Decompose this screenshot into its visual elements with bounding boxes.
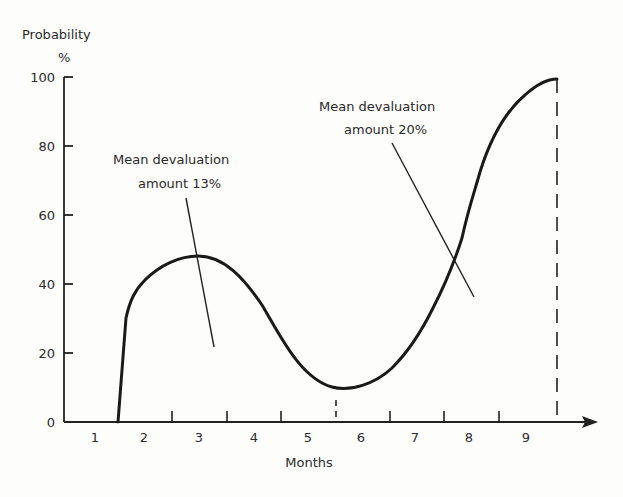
x-tick-2: 2 [140, 430, 148, 445]
x-tick-5: 5 [304, 430, 312, 445]
annotation-1-line1: Mean devaluation [113, 152, 229, 167]
x-tick-1: 1 [91, 430, 99, 445]
x-tick-6: 6 [357, 430, 365, 445]
x-axis-title: Months [285, 455, 333, 470]
x-tick-7: 7 [411, 430, 419, 445]
annotation-1-line2: amount 13% [138, 176, 221, 191]
y-tick-40: 40 [38, 277, 55, 292]
y-axis-unit: % [58, 50, 70, 65]
probability-curve [118, 79, 557, 422]
chart: Probability % 100 80 60 40 20 0 1 2 3 4 … [0, 0, 623, 497]
x-tick-4: 4 [250, 430, 258, 445]
y-tick-20: 20 [38, 346, 55, 361]
annotation-mean-13: Mean devaluation amount 13% [113, 152, 229, 347]
annotation-2-line2: amount 20% [344, 122, 427, 137]
x-tick-labels: 1 2 3 4 5 6 7 8 9 [91, 430, 530, 445]
y-tick-100: 100 [30, 70, 55, 85]
x-tick-8: 8 [465, 430, 473, 445]
y-tick-0: 0 [47, 415, 55, 430]
y-axis-title: Probability [22, 27, 91, 42]
annotation-2-line1: Mean devaluation [319, 99, 435, 114]
y-tick-labels: 100 80 60 40 20 0 [30, 70, 55, 430]
annotation-1-leader [186, 198, 214, 347]
x-axis [64, 411, 598, 428]
y-tick-80: 80 [38, 139, 55, 154]
annotation-2-leader [392, 143, 474, 297]
y-axis [64, 77, 73, 422]
y-tick-60: 60 [38, 208, 55, 223]
x-tick-3: 3 [195, 430, 203, 445]
x-tick-9: 9 [522, 430, 530, 445]
